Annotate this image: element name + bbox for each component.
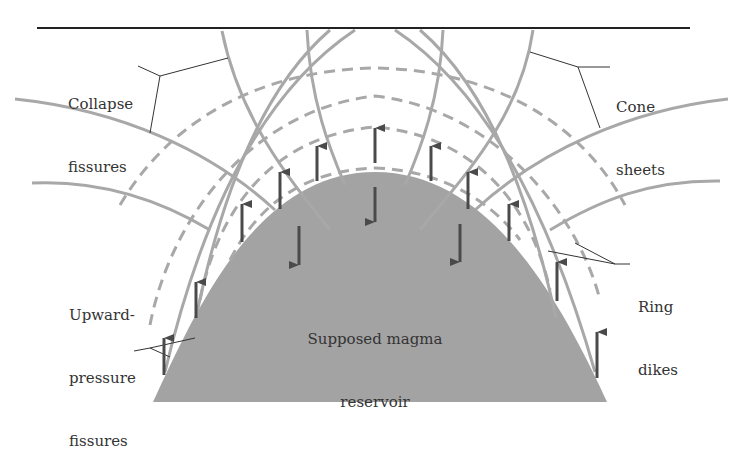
label-line: pressure [69, 368, 136, 389]
label-upward-pressure-fissures: Upward- pressure fissures [69, 263, 136, 450]
label-line: reservoir [300, 392, 450, 413]
label-magma-reservoir: Supposed magma reservoir [300, 287, 450, 434]
label-line: Ring [638, 297, 678, 318]
label-collapse-fissures: Collapse fissures [68, 52, 133, 199]
label-line: Upward- [69, 305, 136, 326]
label-line: Supposed magma [300, 329, 450, 350]
label-line: fissures [69, 431, 136, 450]
label-ring-dikes: Ring dikes [638, 255, 678, 402]
label-line: Cone [616, 97, 665, 118]
label-line: sheets [616, 160, 665, 181]
label-cone-sheets: Cone sheets [616, 55, 665, 202]
label-line: fissures [68, 157, 133, 178]
label-line: dikes [638, 360, 678, 381]
label-line: Collapse [68, 94, 133, 115]
